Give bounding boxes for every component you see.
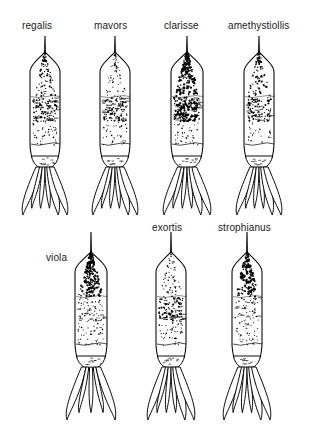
specimen-viola: [59, 226, 127, 430]
taxonomic-plate: regalismavorsclarisseamethystiollisviola…: [0, 0, 323, 443]
specimen-mavors: [85, 30, 149, 225]
specimen-strophianus: [216, 226, 282, 430]
specimen-clarisse: [156, 30, 222, 225]
specimen-exortis: [140, 226, 206, 430]
specimen-amethystiollis: [229, 30, 293, 225]
specimen-regalis: [15, 30, 79, 225]
